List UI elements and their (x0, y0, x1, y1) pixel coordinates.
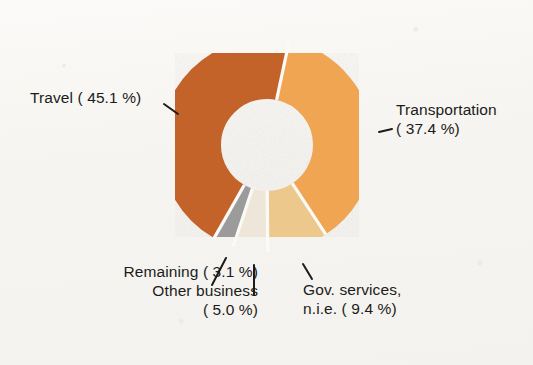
label-gov-services: Gov. services, n.i.e. ( 9.4 %) (303, 280, 401, 318)
label-transportation-name: Transportation (396, 100, 497, 119)
label-gov-services-value: n.i.e. ( 9.4 %) (303, 299, 401, 318)
label-travel: Travel ( 45.1 %) (30, 88, 141, 107)
leader-line-transportation (379, 129, 392, 132)
label-transportation-value: ( 37.4 %) (396, 119, 497, 138)
donut-chart-figure: Travel ( 45.1 %) Transportation ( 37.4 %… (0, 0, 533, 365)
label-other-business-name: Other business (58, 281, 258, 300)
leader-line-gov-services (303, 264, 312, 279)
label-group-bottom-left: Remaining ( 3.1 %) Other business ( 5.0 … (58, 262, 258, 319)
label-remaining: Remaining ( 3.1 %) (58, 262, 258, 281)
label-other-business-value: ( 5.0 %) (58, 300, 258, 319)
label-transportation: Transportation ( 37.4 %) (396, 100, 497, 138)
label-gov-services-name: Gov. services, (303, 280, 401, 299)
label-travel-text: Travel ( 45.1 %) (30, 88, 141, 107)
